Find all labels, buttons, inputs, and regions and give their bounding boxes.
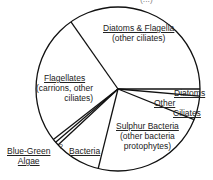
label-sulphur-bacteria: Sulphur Bacteria (other bacteria protoph… bbox=[116, 121, 179, 151]
label-title: Diatoms & Flagella bbox=[103, 23, 174, 33]
label-subtitle: (other ciliates) bbox=[103, 33, 174, 43]
label-line1: Other bbox=[154, 98, 201, 108]
label-title: Sulphur Bacteria bbox=[116, 121, 179, 131]
label-diatoms-flagella: Diatoms & Flagella (other ciliates) bbox=[103, 23, 174, 43]
label-line2: Ciliates bbox=[154, 108, 201, 118]
label-unknown-slice: ? bbox=[59, 142, 63, 152]
label-title: Flagellates bbox=[36, 73, 93, 83]
label-subtitle-1: (other bacteria bbox=[116, 131, 179, 141]
label-subtitle-2: protophytes) bbox=[116, 141, 179, 151]
cut-off-top-text: (...) bbox=[140, 0, 153, 4]
label-diatoms: Diatoms bbox=[174, 88, 205, 98]
label-flagellates: Flagellates (carrions, other ciliates) bbox=[36, 73, 93, 103]
label-subtitle-1: (carrions, other bbox=[36, 83, 93, 93]
label-blue-green-algae: Blue-Green Algae bbox=[7, 146, 50, 166]
label-line2: Algae bbox=[7, 156, 50, 166]
label-other-ciliates: Other Ciliates bbox=[154, 98, 201, 118]
label-subtitle-2: ciliates) bbox=[36, 93, 93, 103]
label-line1: Blue-Green bbox=[7, 146, 50, 156]
label-bacteria: Bacteria bbox=[69, 146, 100, 156]
